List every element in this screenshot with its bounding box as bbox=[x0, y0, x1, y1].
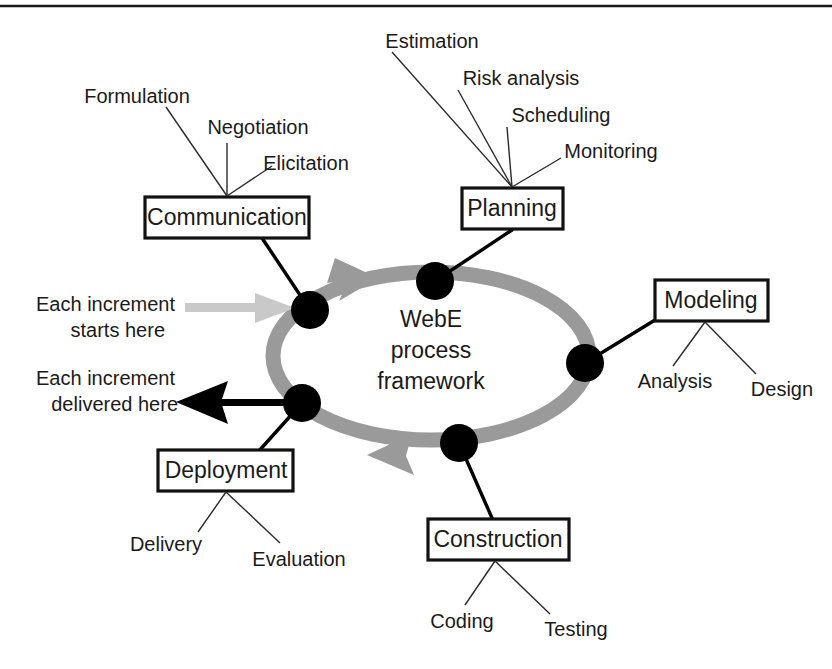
note-exit: Each increment delivered here bbox=[36, 367, 178, 415]
node-communication[interactable] bbox=[291, 291, 329, 329]
center-label-line-1: WebE bbox=[400, 306, 462, 332]
sub-label-evaluation: Evaluation bbox=[252, 548, 345, 570]
webe-process-framework-diagram: WebE process framework Each increment st… bbox=[0, 0, 832, 669]
leader-delivery bbox=[198, 492, 226, 532]
sub-label-coding: Coding bbox=[430, 610, 493, 632]
label-construction: Construction bbox=[433, 526, 562, 552]
sub-label-formulation: Formulation bbox=[84, 85, 190, 107]
note-exit-line-1: Each increment bbox=[36, 367, 175, 389]
sub-label-delivery: Delivery bbox=[130, 533, 202, 555]
label-modeling: Modeling bbox=[664, 287, 757, 313]
sub-label-negotiation: Negotiation bbox=[207, 116, 308, 138]
note-entry-line-2: starts here bbox=[71, 319, 165, 341]
activity-deployment[interactable]: Deployment Delivery Evaluation bbox=[130, 450, 346, 570]
label-communication: Communication bbox=[147, 204, 307, 230]
sub-label-analysis: Analysis bbox=[638, 370, 712, 392]
label-planning: Planning bbox=[467, 195, 557, 221]
activity-modeling[interactable]: Modeling Analysis Design bbox=[638, 280, 813, 400]
node-modeling[interactable] bbox=[566, 344, 604, 382]
node-construction[interactable] bbox=[440, 424, 478, 462]
sub-label-estimation: Estimation bbox=[385, 30, 478, 52]
note-entry-line-1: Each increment bbox=[36, 293, 175, 315]
exit-arrow-head bbox=[176, 381, 228, 424]
leader-design bbox=[705, 322, 756, 374]
sub-label-design: Design bbox=[751, 378, 813, 400]
note-exit-line-2: delivered here bbox=[51, 393, 178, 415]
entry-arrow bbox=[185, 293, 295, 323]
center-label: WebE process framework bbox=[377, 306, 485, 394]
leader-analysis bbox=[673, 322, 705, 366]
figure-canvas: WebE process framework Each increment st… bbox=[0, 0, 832, 669]
activity-planning[interactable]: Planning Estimation Risk analysis Schedu… bbox=[385, 30, 657, 229]
label-deployment: Deployment bbox=[165, 457, 288, 483]
leader-risk-analysis bbox=[458, 90, 512, 187]
leader-evaluation bbox=[226, 492, 280, 543]
sub-label-scheduling: Scheduling bbox=[512, 104, 611, 126]
center-label-line-2: process bbox=[391, 337, 472, 363]
sub-label-elicitation: Elicitation bbox=[263, 152, 349, 174]
center-label-line-3: framework bbox=[377, 368, 485, 394]
sub-label-testing: Testing bbox=[544, 618, 607, 640]
activity-communication[interactable]: Communication Formulation Negotiation El… bbox=[84, 85, 349, 238]
leader-monitoring bbox=[512, 158, 561, 187]
sub-label-monitoring: Monitoring bbox=[564, 140, 657, 162]
entry-arrow-shaft bbox=[185, 303, 261, 312]
activity-construction[interactable]: Construction Coding Testing bbox=[428, 519, 608, 640]
node-deployment[interactable] bbox=[283, 384, 321, 422]
sub-label-risk-analysis: Risk analysis bbox=[463, 67, 580, 89]
leader-coding bbox=[465, 561, 495, 605]
leader-testing bbox=[495, 561, 550, 614]
note-entry: Each increment starts here bbox=[36, 293, 175, 341]
node-planning[interactable] bbox=[416, 262, 454, 300]
